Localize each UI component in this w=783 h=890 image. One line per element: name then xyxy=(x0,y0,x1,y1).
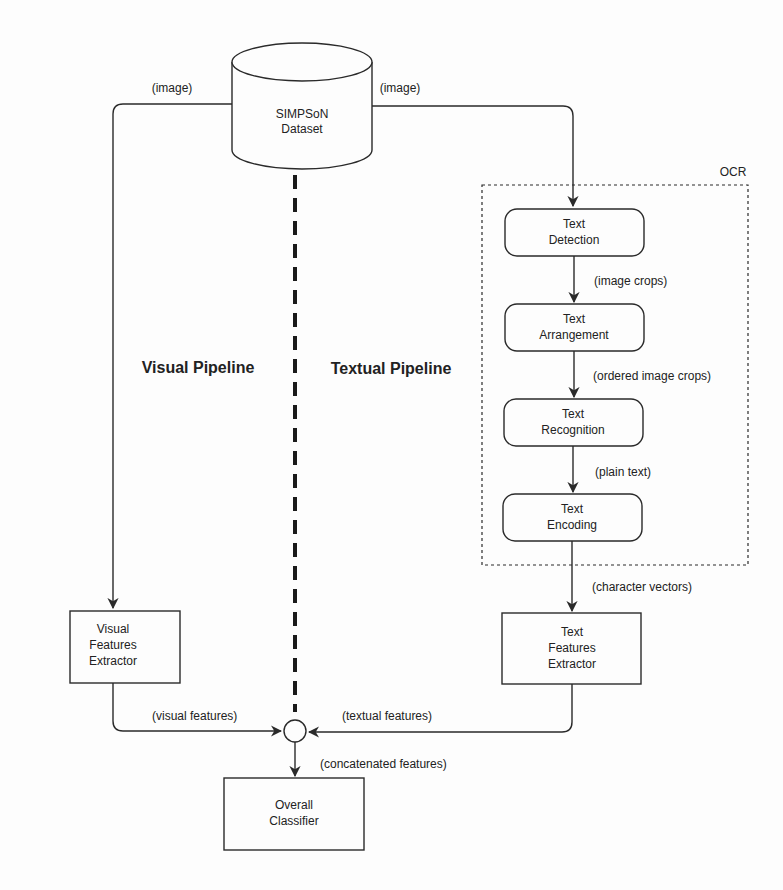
step-label-line1: Text xyxy=(561,502,584,516)
step-label-line2: Encoding xyxy=(547,518,597,532)
step-label-line2: Recognition xyxy=(541,423,604,437)
box-label-line1: Overall xyxy=(275,798,313,812)
edge-label-image-right: (image) xyxy=(380,81,421,95)
edge-visual-features xyxy=(113,683,281,731)
box-label-line1: Text xyxy=(561,625,584,639)
edge-label-image-crops: (image crops) xyxy=(594,274,667,288)
ocr-step-text-arrangement: Text Arrangement xyxy=(505,304,644,351)
edge-image-left xyxy=(113,104,232,608)
step-label-line2: Arrangement xyxy=(539,328,609,342)
ocr-group-label: OCR xyxy=(720,165,747,179)
edge-label-textual-features: (textual features) xyxy=(342,709,432,723)
edge-label-visual-features: (visual features) xyxy=(152,709,237,723)
box-label-line2: Classifier xyxy=(269,814,318,828)
visual-pipeline-title: Visual Pipeline xyxy=(142,359,255,376)
dataset-cylinder: SIMPSoN Dataset xyxy=(232,43,372,169)
step-label-line1: Text xyxy=(562,407,585,421)
edge-label-character-vectors: (character vectors) xyxy=(592,580,692,594)
textual-pipeline-title: Textual Pipeline xyxy=(331,360,452,377)
dataset-label-line2: Dataset xyxy=(281,122,323,136)
box-label-line2: Features xyxy=(548,641,595,655)
concat-node xyxy=(284,720,306,742)
edge-label-ordered-image-crops: (ordered image crops) xyxy=(593,369,711,383)
box-label-line3: Extractor xyxy=(89,654,137,668)
box-label-line2: Features xyxy=(89,638,136,652)
box-label-line3: Extractor xyxy=(548,657,596,671)
step-label-line1: Text xyxy=(563,217,586,231)
edge-image-right xyxy=(372,106,573,206)
overall-classifier: Overall Classifier xyxy=(224,778,364,850)
visual-features-extractor: Visual Features Extractor xyxy=(70,611,180,683)
dataset-label-line1: SIMPSoN xyxy=(276,107,329,121)
edge-label-plain-text: (plain text) xyxy=(595,465,651,479)
step-label-line2: Detection xyxy=(549,233,600,247)
step-label-line1: Text xyxy=(563,312,586,326)
edge-textual-features xyxy=(309,684,572,732)
edge-label-image-left: (image) xyxy=(152,81,193,95)
pipeline-diagram: (image) (image) SIMPSoN Dataset OCR Text… xyxy=(0,0,783,890)
edge-label-concatenated-features: (concatenated features) xyxy=(320,757,447,771)
ocr-step-text-encoding: Text Encoding xyxy=(503,494,642,541)
ocr-step-text-detection: Text Detection xyxy=(505,209,644,256)
text-features-extractor: Text Features Extractor xyxy=(502,613,641,684)
box-label-line1: Visual xyxy=(97,622,129,636)
ocr-step-text-recognition: Text Recognition xyxy=(504,399,643,446)
